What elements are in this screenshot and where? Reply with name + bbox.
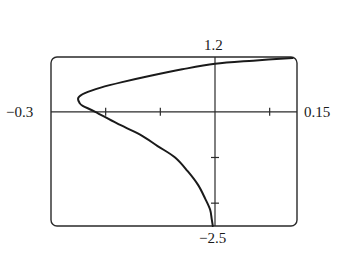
x-max-label: 0.15 bbox=[304, 105, 330, 120]
x-min-label: −0.3 bbox=[6, 105, 33, 120]
plot-frame bbox=[51, 57, 297, 226]
plot-area bbox=[0, 0, 349, 260]
y-max-label: 1.2 bbox=[204, 38, 223, 53]
y-min-label: −2.5 bbox=[199, 231, 226, 246]
data-curve bbox=[78, 58, 293, 226]
